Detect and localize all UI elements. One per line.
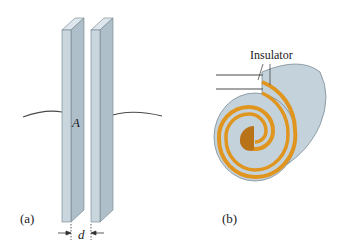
panel-label-b: (b) (222, 212, 237, 225)
right-wire (106, 112, 162, 117)
panel-label-a: (a) (20, 212, 34, 225)
right-plate (91, 18, 113, 222)
parallel-plate-capacitor (23, 18, 162, 240)
capacitor-figure: (a) A d (b) Insulator (0, 0, 340, 248)
figure-drawing (0, 0, 340, 248)
area-label: A (72, 116, 80, 129)
rolled-capacitor (214, 64, 326, 181)
insulator-callout: Insulator (250, 49, 293, 61)
left-wire (23, 111, 62, 117)
gap-label: d (78, 228, 85, 241)
